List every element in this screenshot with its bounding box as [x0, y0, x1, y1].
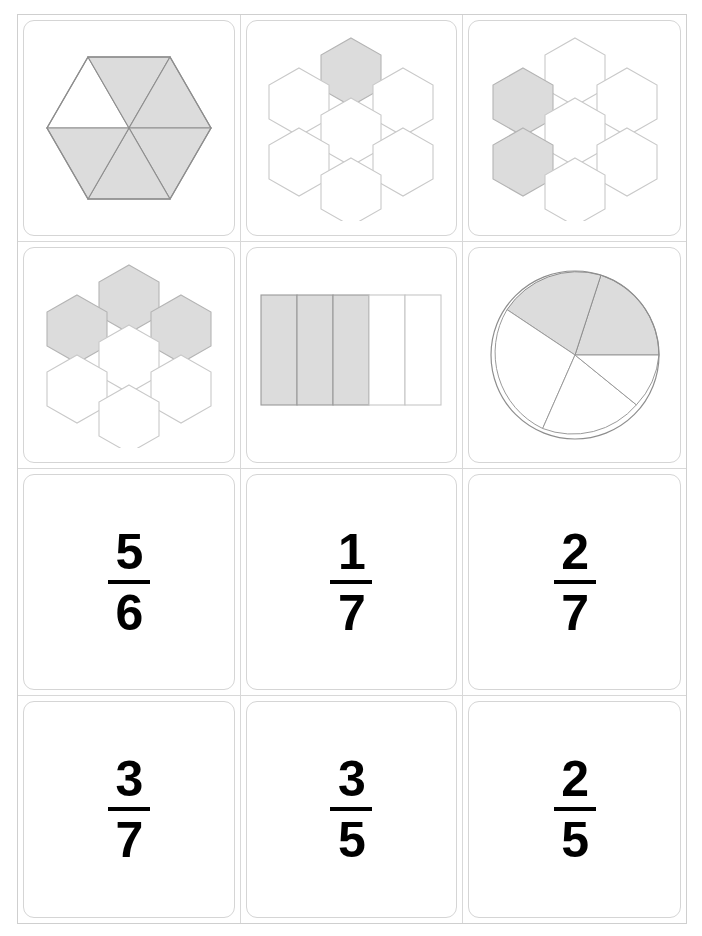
- numerator: 3: [115, 754, 142, 804]
- fraction-5-6: 5 6: [108, 527, 150, 638]
- grid-cell: 2 7: [463, 469, 686, 696]
- grid-cell: [18, 15, 241, 242]
- hex-upper-right: [597, 68, 657, 136]
- worksheet-sheet: 5 6 1 7 2 7: [17, 14, 687, 924]
- card-4[interactable]: [23, 247, 235, 463]
- grid-cell: 1 7: [241, 469, 464, 696]
- denominator: 7: [338, 588, 365, 638]
- hex-lower-right: [151, 355, 211, 423]
- hex-top: [545, 38, 605, 106]
- strip-2-shaded: [297, 295, 333, 405]
- hex-upper-left-shaded: [493, 68, 553, 136]
- denominator: 5: [338, 815, 365, 865]
- fraction-3-5: 3 5: [330, 754, 372, 865]
- hex-lower-left: [47, 355, 107, 423]
- numerator: 2: [561, 754, 588, 804]
- strip-4-unshaded: [369, 295, 405, 405]
- fraction-bar: [554, 807, 596, 811]
- card-11[interactable]: 3 5: [246, 701, 458, 918]
- hex-lower-right: [373, 128, 433, 196]
- grid-cell: 5 6: [18, 469, 241, 696]
- numerator: 1: [338, 527, 365, 577]
- denominator: 7: [561, 588, 588, 638]
- hexagon-flower-seven-figure: [34, 262, 224, 448]
- grid-cell: [463, 242, 686, 469]
- pie-five-sectors-figure: [488, 268, 662, 442]
- card-1[interactable]: [23, 20, 235, 236]
- denominator: 6: [115, 588, 142, 638]
- grid-cell: [18, 242, 241, 469]
- fraction-2-5: 2 5: [554, 754, 596, 865]
- hexagon-flower-seven-figure: [480, 35, 670, 221]
- fraction-2-7: 2 7: [554, 527, 596, 638]
- card-8[interactable]: 1 7: [246, 474, 458, 690]
- grid-cell: [463, 15, 686, 242]
- hex-upper-right-shaded: [151, 295, 211, 363]
- grid-cell: [241, 15, 464, 242]
- hex-lower-right: [597, 128, 657, 196]
- hex-bottom: [545, 158, 605, 221]
- grid-cell: 2 5: [463, 696, 686, 923]
- grid-cell: 3 7: [18, 696, 241, 923]
- denominator: 7: [115, 815, 142, 865]
- hex-upper-right: [373, 68, 433, 136]
- fraction-bar: [554, 580, 596, 584]
- card-2[interactable]: [246, 20, 458, 236]
- hex-center: [321, 98, 381, 166]
- hex-bottom: [321, 158, 381, 221]
- hex-lower-left-shaded: [493, 128, 553, 196]
- numerator: 2: [561, 527, 588, 577]
- numerator: 5: [115, 527, 142, 577]
- strip-3-shaded: [333, 295, 369, 405]
- strip-1-shaded: [261, 295, 297, 405]
- hex-center: [99, 325, 159, 393]
- card-9[interactable]: 2 7: [468, 474, 681, 690]
- fraction-bar: [330, 580, 372, 584]
- grid-cell: [241, 242, 464, 469]
- hex-top-shaded: [321, 38, 381, 106]
- fraction-3-7: 3 7: [108, 754, 150, 865]
- card-grid: 5 6 1 7 2 7: [18, 15, 686, 923]
- hexagon-flower-seven-figure: [256, 35, 446, 221]
- card-3[interactable]: [468, 20, 681, 236]
- grid-cell: 3 5: [241, 696, 464, 923]
- hex-lower-left: [269, 128, 329, 196]
- fraction-bar: [108, 807, 150, 811]
- numerator: 3: [338, 754, 365, 804]
- fraction-1-7: 1 7: [330, 527, 372, 638]
- hex-upper-left: [269, 68, 329, 136]
- hexagon-six-triangles-figure: [39, 43, 219, 213]
- strip-5-unshaded: [405, 295, 441, 405]
- hex-center: [545, 98, 605, 166]
- card-5[interactable]: [246, 247, 458, 463]
- card-7[interactable]: 5 6: [23, 474, 235, 690]
- fraction-bar: [108, 580, 150, 584]
- card-6[interactable]: [468, 247, 681, 463]
- hex-top-shaded: [99, 265, 159, 333]
- hex-upper-left-shaded: [47, 295, 107, 363]
- hex-bottom: [99, 385, 159, 448]
- fraction-bar: [330, 807, 372, 811]
- card-12[interactable]: 2 5: [468, 701, 681, 918]
- denominator: 5: [561, 815, 588, 865]
- rectangle-five-strips-figure: [260, 294, 442, 416]
- card-10[interactable]: 3 7: [23, 701, 235, 918]
